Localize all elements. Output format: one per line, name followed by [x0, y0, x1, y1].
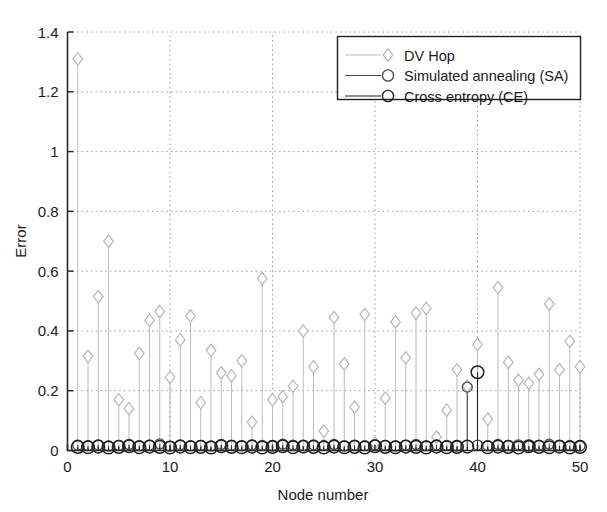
y-tick-label: 0.8 — [38, 203, 59, 220]
legend-label: Cross entropy (CE) — [404, 89, 528, 105]
x-tick-label: 50 — [572, 458, 589, 475]
chart-legend[interactable]: DV HopSimulated annealing (SA)Cross entr… — [338, 37, 581, 105]
y-tick-label: 0.2 — [38, 382, 59, 399]
y-tick-label: 1 — [50, 143, 58, 160]
y-axis-title: Error — [12, 224, 29, 257]
x-tick-label: 10 — [162, 458, 179, 475]
y-tick-label: 1.2 — [38, 83, 59, 100]
x-tick-label: 20 — [264, 458, 281, 475]
y-tick-label: 0 — [50, 442, 58, 459]
x-tick-label: 30 — [367, 458, 384, 475]
legend-label: DV Hop — [404, 48, 455, 64]
y-tick-label: 0.6 — [38, 263, 59, 280]
x-axis-title: Node number — [278, 486, 369, 503]
y-tick-label: 1.4 — [38, 24, 59, 41]
error-per-node-stem-chart: 00.20.40.60.811.21.4 01020304050 Error N… — [0, 0, 607, 512]
legend-label: Simulated annealing (SA) — [404, 68, 568, 84]
x-tick-label: 40 — [469, 458, 486, 475]
y-tick-label: 0.4 — [38, 322, 59, 339]
x-tick-label: 0 — [63, 458, 71, 475]
figure-container: 00.20.40.60.811.21.4 01020304050 Error N… — [0, 0, 607, 512]
